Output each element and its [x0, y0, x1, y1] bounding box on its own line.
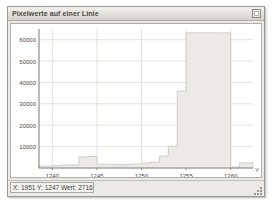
axis-caption-right: Y	[255, 167, 259, 173]
maximize-restore-icon[interactable]	[252, 9, 261, 18]
y-tick-label-2: 30000	[19, 101, 36, 107]
window-statusbar: X: 1951 Y: 1247 Wert: 2716	[8, 180, 264, 196]
window-title: Pixelwerte auf einer Linie	[12, 8, 99, 19]
x-tick-label-0: 1240	[46, 173, 60, 178]
chart-canvas[interactable]: 1000020000300004000050000600001240124512…	[10, 23, 262, 178]
y-tick-label-1: 20000	[19, 123, 36, 129]
y-tick-label-5: 60000	[19, 37, 36, 43]
screenshot-root: Pixelwerte auf einer Linie 1000020000300…	[0, 0, 272, 203]
y-tick-label-4: 50000	[19, 59, 36, 65]
coordinate-readout-text: X: 1951 Y: 1247 Wert: 2716	[13, 183, 93, 193]
x-tick-label-2: 1250	[135, 173, 149, 178]
maximize-restore-glyph	[254, 11, 259, 16]
pixel-values-window: Pixelwerte auf einer Linie 1000020000300…	[7, 6, 265, 197]
y-tick-label-3: 40000	[19, 80, 36, 86]
line-profile-chart: 1000020000300004000050000600001240124512…	[11, 24, 262, 178]
x-tick-label-1: 1245	[90, 173, 104, 178]
coordinate-readout-panel: X: 1951 Y: 1247 Wert: 2716	[10, 182, 94, 193]
x-tick-label-4: 1260	[224, 173, 238, 178]
x-tick-label-3: 1255	[179, 173, 193, 178]
window-titlebar[interactable]: Pixelwerte auf einer Linie	[8, 7, 264, 21]
resize-grip-icon[interactable]	[251, 184, 262, 195]
y-tick-label-0: 10000	[19, 144, 36, 150]
